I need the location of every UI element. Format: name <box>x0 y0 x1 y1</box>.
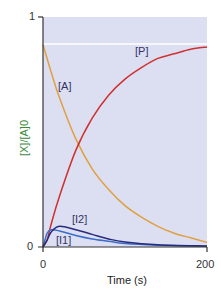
label-I2: [I2] <box>72 213 87 225</box>
label-I1: [I1] <box>56 234 71 246</box>
label-A: [A] <box>58 80 71 92</box>
x-tick-label-0: 0 <box>40 258 46 270</box>
y-axis-title-text: [X]/[A]0 <box>18 120 30 156</box>
label-P: [P] <box>135 45 148 57</box>
y-axis-title: [X]/[A]0 <box>4 108 44 168</box>
x-tick-label-200: 200 <box>196 258 214 270</box>
reaction-kinetics-chart: 1 0 0 200 Time (s) [X]/[A]0 [A] [P] [I1]… <box>0 0 221 294</box>
x-axis-title: Time (s) <box>107 274 147 286</box>
y-tick-label-1: 1 <box>29 10 35 22</box>
y-tick-label-0: 0 <box>27 240 33 252</box>
